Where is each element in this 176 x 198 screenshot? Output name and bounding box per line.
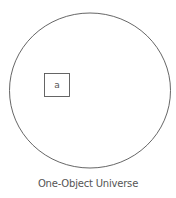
diagram-caption: One-Object Universe bbox=[0, 178, 176, 189]
object-label: a bbox=[54, 80, 60, 90]
universe-circle bbox=[10, 13, 171, 168]
universe-diagram: a bbox=[0, 0, 176, 198]
